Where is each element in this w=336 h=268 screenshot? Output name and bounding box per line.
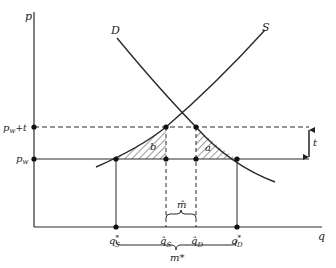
m-hat-label: m̂	[177, 199, 186, 210]
tariff-diagram: p q D S pw+t pw b a t q*S q̂S q̂D q*D m̂…	[0, 0, 336, 268]
tariff-price-label: pw+t	[3, 122, 27, 135]
area-b-label: b	[150, 141, 156, 152]
x-axis-label: q	[318, 230, 325, 243]
y-axis-label: p	[25, 10, 32, 23]
m-star-label: m*	[170, 252, 184, 263]
area-a-hatch	[196, 127, 237, 159]
demand-label: D	[110, 24, 120, 37]
supply-curve	[96, 30, 265, 167]
qs-hat-label: q̂S	[160, 235, 171, 249]
qd-hat-label: q̂D	[191, 235, 203, 249]
qs-star-label: q*S	[109, 234, 120, 249]
qd-star-label: q*D	[231, 234, 243, 249]
world-price-label: pw	[16, 153, 28, 166]
m-hat-brace	[166, 210, 196, 218]
tariff-label: t	[313, 137, 318, 148]
area-a-label: a	[205, 142, 211, 153]
supply-label: S	[262, 21, 270, 34]
m-star-brace	[116, 240, 237, 250]
